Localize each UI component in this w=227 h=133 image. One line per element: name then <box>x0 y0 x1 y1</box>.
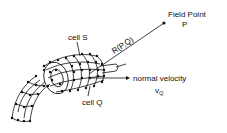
normal-velocity-label: normal velocity <box>133 74 186 83</box>
cell-s-leader <box>77 42 80 56</box>
boundary-element-diagram: Field Point P R(P,Q) cell S cell Q norma… <box>0 0 227 133</box>
cell-q-leader <box>88 86 90 96</box>
arrowhead-icon <box>126 76 130 80</box>
cell-s-label: cell S <box>68 33 88 42</box>
normal-vector <box>88 64 130 80</box>
cell-q-label: cell Q <box>82 98 102 107</box>
field-point-label: Field Point <box>168 10 207 19</box>
diagram: Field Point P R(P,Q) cell S cell Q norma… <box>0 0 227 133</box>
field-point-symbol: P <box>182 20 187 29</box>
field-point-dot <box>162 21 165 24</box>
velocity-symbol: vQ <box>155 86 164 96</box>
tube-mesh <box>12 54 104 122</box>
